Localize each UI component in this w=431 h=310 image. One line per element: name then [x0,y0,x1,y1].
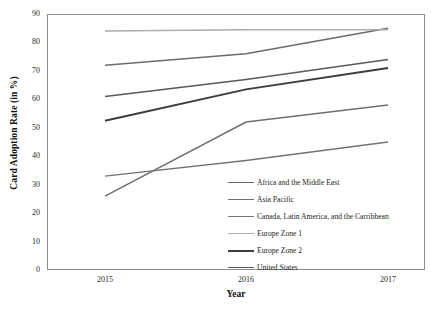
legend-label: Africa and the Middle East [257,179,339,187]
legend-label: Canada, Latin America, and the Carribbea… [257,213,389,221]
legend-label: Europe Zone 2 [257,247,302,255]
chart-legend: Africa and the Middle EastAsia PacificCa… [228,174,418,276]
series-line [105,142,388,176]
legend-item: Canada, Latin America, and the Carribbea… [228,208,418,225]
legend-label: United States [257,264,298,272]
legend-swatch [228,182,254,183]
series-line [105,28,388,65]
legend-item: Africa and the Middle East [228,174,418,191]
legend-label: Europe Zone 1 [257,230,302,238]
series-line [105,68,388,121]
legend-item: Europe Zone 2 [228,242,418,259]
series-line [105,30,388,31]
legend-swatch [228,267,254,268]
legend-item: United States [228,259,418,276]
legend-item: Europe Zone 1 [228,225,418,242]
series-line [105,60,388,97]
legend-swatch [228,216,254,217]
legend-swatch [228,233,254,234]
legend-swatch [228,199,254,200]
legend-item: Asia Pacific [228,191,418,208]
legend-swatch [228,250,254,252]
line-chart: Card Adoption Rate (in %) Year 010203040… [0,0,431,310]
legend-label: Asia Pacific [257,196,294,204]
